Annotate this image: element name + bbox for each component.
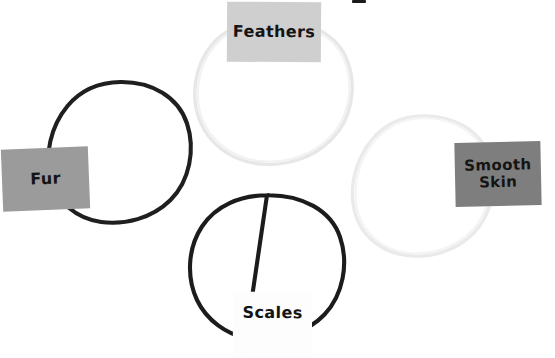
label-scales[interactable]: Scales [233, 292, 313, 358]
label-smooth-skin[interactable]: Smooth Skin [454, 141, 541, 207]
clipped-title-remnant [352, 0, 366, 3]
label-feathers[interactable]: Feathers [227, 2, 321, 63]
diagram-canvas: Feathers Fur Smooth Skin Scales [0, 0, 555, 358]
label-fur[interactable]: Fur [1, 146, 90, 211]
